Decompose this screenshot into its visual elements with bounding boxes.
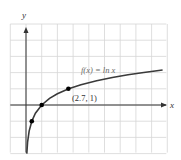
point-marker xyxy=(39,103,44,108)
plot-area: y x f(x) = ln x (2.7, 1) xyxy=(0,0,181,160)
ln-curve xyxy=(27,70,163,154)
point-label: (2.7, 1) xyxy=(72,93,97,103)
x-axis-label: x xyxy=(169,100,174,110)
grid-lines xyxy=(10,24,167,154)
ln-function-graph: y x f(x) = ln x (2.7, 1) xyxy=(0,0,181,160)
point-marker xyxy=(29,119,34,124)
point-marker xyxy=(66,87,71,92)
y-axis-label: y xyxy=(21,10,26,20)
function-label: f(x) = ln x xyxy=(81,65,116,75)
